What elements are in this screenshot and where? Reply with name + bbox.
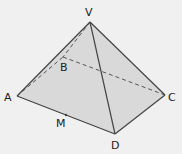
label-m: M	[56, 117, 66, 130]
label-d: D	[111, 139, 119, 152]
label-a: A	[4, 91, 12, 104]
label-b: B	[60, 61, 68, 74]
label-v: V	[85, 6, 93, 19]
label-c: C	[168, 91, 176, 104]
pyramid-diagram: V A B C D M	[0, 0, 182, 154]
point-m	[65, 114, 67, 116]
